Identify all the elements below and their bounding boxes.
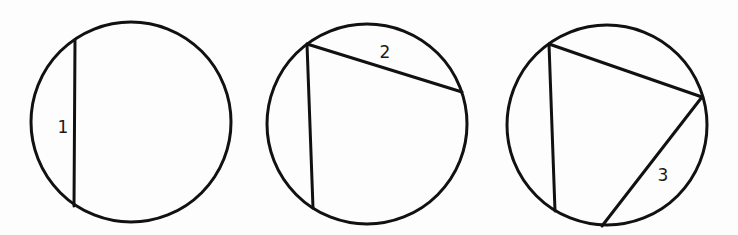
- chord-1: [307, 44, 313, 208]
- panel-1: 1: [31, 22, 231, 222]
- chord-1: [549, 44, 555, 211]
- chord-label-3: 3: [658, 165, 669, 185]
- chord-3: [602, 97, 702, 226]
- chord-label-2: 2: [380, 42, 391, 62]
- chord-2: [549, 44, 702, 97]
- chord-sequence-diagram: 1 2 3: [0, 0, 738, 235]
- chord-1: [74, 40, 75, 206]
- circle-3: [507, 25, 707, 225]
- panel-2: 2: [267, 24, 467, 224]
- panel-3: 3: [507, 25, 707, 226]
- circle-2: [267, 24, 467, 224]
- chord-label-1: 1: [58, 117, 69, 137]
